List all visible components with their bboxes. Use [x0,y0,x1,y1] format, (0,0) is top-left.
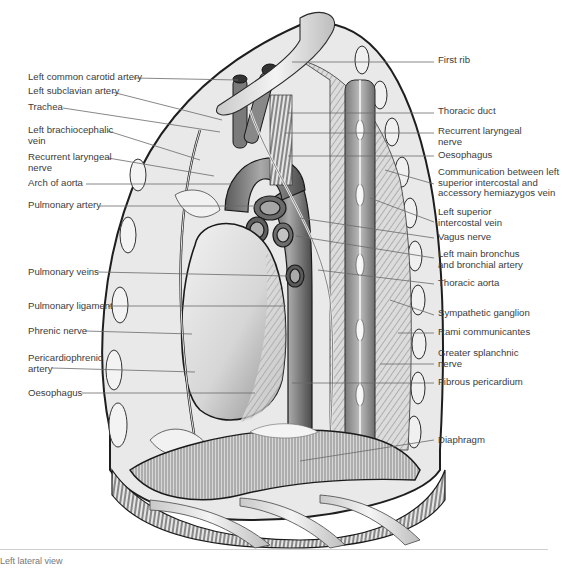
label-left-brachiocephalic-vein: Left brachiocephalic vein [28,125,113,146]
label-pulmonary-artery: Pulmonary artery [28,200,101,211]
label-thoracic-aorta: Thoracic aorta [438,278,499,289]
label-recurrent-laryngeal-nerve-left: Recurrent laryngeal nerve [28,152,112,173]
caption-divider [0,549,548,550]
label-oesophagus-left: Oesophagus [28,388,82,399]
figure-caption: Left lateral view [0,556,63,566]
label-left-subclavian-artery: Left subclavian artery [28,86,119,97]
label-vagus-nerve: Vagus nerve [438,232,491,243]
label-trachea: Trachea [28,102,63,113]
label-thoracic-duct: Thoracic duct [438,106,496,117]
label-left-common-carotid-artery: Left common carotid artery [28,72,142,83]
label-arch-of-aorta: Arch of aorta [28,178,83,189]
label-fibrous-pericardium: Fibrous pericardium [438,377,523,388]
label-diaphragm: Diaphragm [438,435,485,446]
label-first-rib: First rib [438,55,470,66]
label-recurrent-laryngeal-nerve-right: Recurrent laryngeal nerve [438,126,522,147]
label-left-main-bronchus: Left main bronchus and bronchial artery [438,249,523,270]
label-rami-communicantes: Rami communicantes [438,327,530,338]
label-communication-intercostal-hemiazygos: Communication between left superior inte… [438,167,559,199]
label-oesophagus-right: Oesophagus [438,150,492,161]
label-pulmonary-ligament: Pulmonary ligament [28,301,113,312]
label-phrenic-nerve: Phrenic nerve [28,326,87,337]
label-pericardiophrenic-artery: Pericardiophrenic artery [28,353,103,374]
label-pulmonary-veins: Pulmonary veins [28,267,99,278]
label-left-superior-intercostal-vein: Left superior intercostal vein [438,207,502,228]
label-sympathetic-ganglion: Sympathetic ganglion [438,308,530,319]
label-greater-splanchnic-nerve: Greater splanchnic nerve [438,348,519,369]
anatomy-figure: Left common carotid artery Left subclavi… [0,0,573,569]
